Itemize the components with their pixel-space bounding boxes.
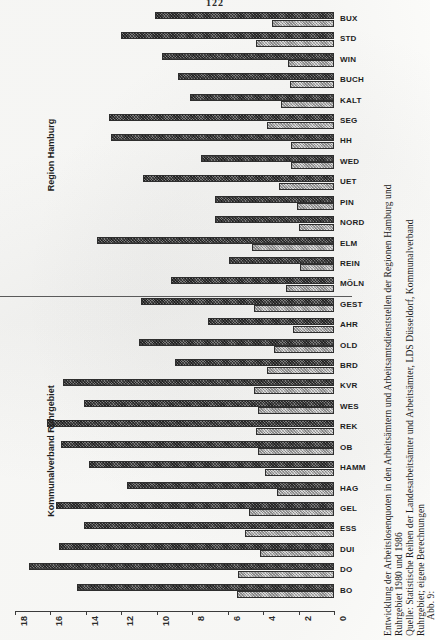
x-tick-mark [228,611,229,615]
bar-1980 [267,122,334,129]
x-tick-label: 6 [232,616,242,621]
bar-1986 [190,94,334,101]
category-label: BRD [340,361,358,370]
bar-1986 [229,257,334,264]
bar-1980 [238,571,334,578]
bar-1986 [47,420,334,427]
bar-row: KALT [0,94,352,114]
bar-row: ESS [0,522,352,542]
bar-row: ELM [0,237,352,257]
bar-1986 [215,216,334,223]
category-label: HAMM [340,463,366,472]
bar-row: BUX [0,12,352,32]
bar-1980 [265,469,334,476]
category-label: BUX [340,14,358,23]
bar-1980 [277,489,334,496]
caption-line-4: Ruhrgebiet; eigene Berechnungen [416,504,426,636]
x-tick-label: 16 [54,616,64,626]
bar-1980 [286,285,334,292]
x-tick-mark [86,611,87,615]
category-label: REIN [340,259,360,268]
caption-line-2: Ruhrgebiet 1980 und 1986 [394,532,404,636]
category-label: KVR [340,381,358,390]
bar-1986 [201,155,334,162]
group-title: Region Hamburg [46,119,56,192]
bar-row: BRD [0,359,352,379]
x-tick-mark [15,611,16,615]
bar-1980 [245,530,334,537]
bar-1986 [162,53,334,60]
bar-row: OLD [0,339,352,359]
bar-row: STD [0,32,352,52]
bar-1980 [258,407,334,414]
bar-1986 [84,522,334,529]
category-label: AHR [340,320,358,329]
category-label: KALT [340,96,362,105]
bar-1980 [256,428,334,435]
bar-1980 [293,326,334,333]
bar-1986 [178,73,334,80]
category-label: GEST [340,300,363,309]
category-label: HH [340,136,352,145]
category-label: GEL [340,504,357,513]
category-label: REK [340,422,358,431]
bar-1986 [77,584,334,591]
category-label: WIN [340,55,356,64]
bar-1980 [279,183,334,190]
category-label: ELM [340,239,358,248]
bar-row: MÖLN [0,277,352,297]
bar-row: BUCH [0,73,352,93]
category-label: DO [340,565,352,574]
category-label: BO [340,586,352,595]
bar-1980 [254,387,334,394]
bar-1980 [260,550,334,557]
category-label: DUI [340,545,354,554]
bar-1986 [139,339,334,346]
bar-1986 [141,298,334,305]
bar-1980 [300,264,334,271]
bar-1980 [249,509,334,516]
category-label: MÖLN [340,279,364,288]
bar-1986 [175,359,335,366]
bar-1986 [59,543,334,550]
category-label: STD [340,34,357,43]
bar-1980 [258,448,334,455]
bar-1980 [252,244,334,251]
bar-1986 [127,482,334,489]
category-label: ESS [340,524,357,533]
bar-1980 [267,367,334,374]
category-label: SEG [340,116,358,125]
x-tick-label: 4 [267,616,277,621]
x-tick-label: 10 [161,616,171,626]
bar-1986 [89,461,334,468]
group-divider [0,296,352,297]
bar-1986 [208,318,334,325]
page-number: 122 [0,0,430,8]
bar-1980 [299,224,334,231]
x-tick-mark [299,611,300,615]
bar-1986 [155,12,334,19]
bar-row: PIN [0,196,352,216]
bar-1980 [281,101,334,108]
x-tick-label: 12 [125,616,135,626]
bar-1980 [254,305,334,312]
figure-caption: Abb. 9: Entwicklung der Arbeitslosenquot… [374,8,430,636]
category-label: PIN [340,198,354,207]
x-tick-label: 18 [19,616,29,626]
x-tick-label: 14 [90,616,100,626]
caption-line-3: Quelle: Statistische Reihen der Landesar… [405,219,415,636]
x-axis-line [15,611,335,612]
bar-1980 [237,591,334,598]
bar-1986 [111,134,334,141]
bar-1980 [290,81,334,88]
group-title: Kommunalverband Ruhrgebiet [46,385,56,517]
bar-1986 [97,237,334,244]
bar-1986 [63,379,334,386]
bar-row: NORD [0,216,352,236]
bar-1986 [61,441,334,448]
x-tick-mark [121,611,122,615]
bar-1986 [56,502,334,509]
bar-1980 [256,40,334,47]
category-label: WED [340,157,359,166]
